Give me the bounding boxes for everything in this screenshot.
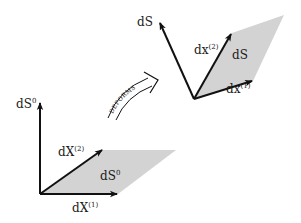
deformation-diagram: dS0 dX(2) dS0 dX(1) DEFORMS dS dx(2) dS …	[0, 0, 301, 223]
reference-normal-label: dS0	[16, 97, 36, 111]
dX1-label: dX(1)	[72, 201, 98, 215]
dx2-label: dx(2)	[194, 43, 219, 57]
reference-configuration: dS0 dX(2) dS0 dX(1)	[16, 97, 176, 215]
deforms-arrow: DEFORMS	[107, 72, 158, 120]
deformed-area-label: dS	[232, 48, 248, 62]
dX2-label: dX(2)	[58, 145, 84, 159]
deformed-configuration: dS dx(2) dS dx(1)	[137, 15, 284, 99]
deformed-normal-arrow	[160, 23, 194, 99]
deformed-normal-label: dS	[137, 15, 153, 29]
deforms-label: DEFORMS	[107, 83, 136, 114]
dx1-label: dx(1)	[226, 82, 251, 96]
